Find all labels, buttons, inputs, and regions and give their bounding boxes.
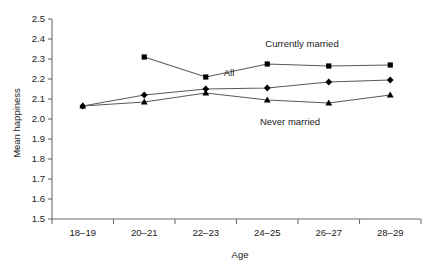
- y-tick-label: 2.4: [32, 33, 45, 44]
- data-point-marker: [203, 74, 208, 79]
- x-tick-label: 18–19: [70, 227, 96, 238]
- x-tick-label: 26–27: [316, 227, 342, 238]
- data-point-marker: [265, 61, 270, 66]
- mean-happiness-line-chart: 2.52.42.32.22.12.01.91.81.71.61.5 18–192…: [0, 0, 431, 266]
- series-label-all: All: [224, 67, 235, 78]
- data-point-marker: [326, 63, 331, 68]
- x-tick-label: 28–29: [377, 227, 403, 238]
- y-tick-label: 1.6: [32, 193, 45, 204]
- y-tick-label: 2.3: [32, 53, 45, 64]
- y-tick-label: 1.8: [32, 153, 45, 164]
- x-axis-title: Age: [232, 249, 249, 260]
- y-axis-title: Mean happiness: [11, 88, 22, 158]
- y-tick-label: 2.5: [32, 13, 45, 24]
- y-tick-label: 2.2: [32, 73, 45, 84]
- data-point-marker: [142, 54, 147, 59]
- x-tick-label: 24–25: [254, 227, 280, 238]
- chart-container: 2.52.42.32.22.12.01.91.81.71.61.5 18–192…: [0, 0, 431, 266]
- x-tick-label: 20–21: [131, 227, 157, 238]
- y-tick-label: 2.0: [32, 113, 45, 124]
- x-tick-label: 22–23: [193, 227, 219, 238]
- y-tick-label: 1.7: [32, 173, 45, 184]
- y-tick-label: 2.1: [32, 93, 45, 104]
- y-tick-label: 1.5: [32, 213, 45, 224]
- data-point-marker: [388, 62, 393, 67]
- series-label-currently-married: Currently married: [265, 38, 338, 49]
- y-tick-label: 1.9: [32, 133, 45, 144]
- series-label-never-married: Never married: [260, 116, 320, 127]
